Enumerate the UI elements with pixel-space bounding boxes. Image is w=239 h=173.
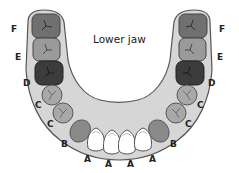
label-left-C1: C [35,100,42,110]
label-right-C2: C [185,119,192,129]
label-right-D: D [208,78,215,88]
tooth-right-D [176,61,204,85]
tooth-right-E [179,38,206,61]
label-front-A4: A [149,154,156,164]
label-front-A3: A [127,159,134,169]
label-right-F: F [219,24,225,34]
label-right-B: B [170,139,177,149]
diagram-title: Lower jaw [93,33,146,45]
label-left-C2: C [47,119,54,129]
label-right-C1: C [197,100,204,110]
label-left-F: F [11,24,17,34]
label-left-B: B [61,139,68,149]
label-left-E: E [15,52,21,62]
tooth-right-F [179,14,207,38]
label-right-E: E [217,52,223,62]
label-front-A2: A [105,159,112,169]
label-left-D: D [23,78,30,88]
lower-jaw-diagram: Lower jaw F E D C C B F E D C C B A A A … [0,0,239,173]
label-front-A1: A [84,154,91,164]
